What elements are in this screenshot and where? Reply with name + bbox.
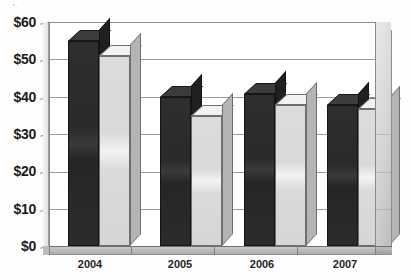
- chart-floor-front-edge: [49, 254, 391, 255]
- gridline: [376, 172, 391, 173]
- y-axis-tick-label: $0: [21, 238, 36, 254]
- y-axis-tick-label: $30: [14, 126, 36, 142]
- y-axis: $60 $50 $40 $30 $20 $10 $0: [0, 0, 40, 280]
- bar-2006-series2: [275, 105, 306, 246]
- bar-2006-series1: [244, 94, 275, 246]
- chart-right-wall: [375, 22, 391, 246]
- bar-front-face: [191, 116, 222, 246]
- x-axis-tick-label: 2005: [168, 258, 192, 270]
- bar-2005-series2: [191, 116, 222, 246]
- bar-2004-series2: [99, 56, 130, 246]
- x-axis-tick-label: 2004: [78, 258, 102, 270]
- y-axis-tick-label: $50: [14, 51, 36, 67]
- bar-2004-series1: [68, 41, 99, 246]
- bar-front-face: [99, 56, 130, 246]
- y-axis-tick-label: $10: [14, 201, 36, 217]
- y-axis-tick-label: $20: [14, 163, 36, 179]
- x-axis-tick-label: 2007: [333, 258, 357, 270]
- x-axis-tick-mark: [214, 246, 215, 255]
- bar-front-face: [275, 105, 306, 246]
- x-axis-tick-mark: [375, 246, 376, 255]
- bar-front-face: [244, 94, 275, 246]
- bar-side-face: [306, 82, 317, 246]
- chart-right-edge: [391, 30, 392, 246]
- x-axis-tick-mark: [297, 246, 298, 255]
- bar-2005-series1: [160, 97, 191, 246]
- bar-side-face: [130, 33, 141, 246]
- bar-chart: $60 $50 $40 $30 $20 $10 $0: [0, 0, 412, 280]
- bar-front-face: [68, 41, 99, 246]
- bar-2007-series1: [327, 105, 358, 246]
- gridline: [376, 209, 391, 210]
- bar-front-face: [160, 97, 191, 246]
- bar-side-face: [222, 93, 233, 246]
- gridline: [376, 134, 391, 135]
- x-axis-tick-mark: [49, 246, 50, 255]
- x-axis-tick-label: 2006: [250, 258, 274, 270]
- plot-area: [49, 22, 375, 246]
- bar-front-face: [327, 105, 358, 246]
- x-axis-tick-mark: [131, 246, 132, 255]
- y-axis-tick-label: $40: [14, 89, 36, 105]
- y-axis-tick-label: $60: [14, 14, 36, 30]
